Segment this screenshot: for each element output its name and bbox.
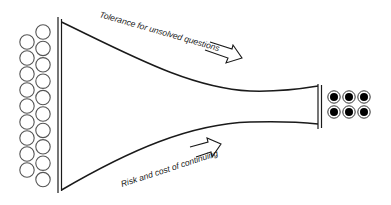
input-circle bbox=[36, 156, 50, 170]
input-circle bbox=[36, 172, 50, 186]
funnel-top-edge bbox=[62, 22, 319, 91]
top-label: Tolerance for unsolved questions bbox=[98, 9, 221, 53]
input-circle bbox=[36, 107, 50, 121]
output-circle bbox=[343, 106, 355, 118]
input-circle bbox=[20, 35, 34, 49]
output-circle bbox=[328, 91, 340, 103]
input-circle bbox=[20, 99, 34, 113]
input-circle bbox=[20, 67, 34, 81]
output-circle bbox=[328, 106, 340, 118]
input-circle bbox=[20, 131, 34, 145]
funnel-svg: Tolerance for unsolved questions Risk an… bbox=[0, 0, 391, 205]
funnel-right-wall bbox=[318, 84, 322, 129]
output-circle bbox=[358, 106, 370, 118]
input-circle bbox=[36, 74, 50, 88]
output-circles bbox=[328, 91, 370, 118]
funnel-diagram: Tolerance for unsolved questions Risk an… bbox=[0, 0, 391, 205]
input-circle bbox=[36, 41, 50, 55]
input-circle bbox=[20, 147, 34, 161]
output-circle bbox=[358, 91, 370, 103]
input-circles bbox=[20, 25, 50, 187]
input-circle bbox=[36, 25, 50, 39]
input-circle bbox=[36, 90, 50, 104]
input-circle bbox=[36, 58, 50, 72]
input-circle bbox=[20, 115, 34, 129]
output-circle bbox=[343, 91, 355, 103]
input-circle bbox=[20, 163, 34, 177]
input-circle bbox=[20, 51, 34, 65]
input-circle bbox=[36, 140, 50, 154]
input-circle bbox=[36, 123, 50, 137]
input-circle bbox=[20, 83, 34, 97]
funnel-left-wall bbox=[58, 17, 62, 193]
